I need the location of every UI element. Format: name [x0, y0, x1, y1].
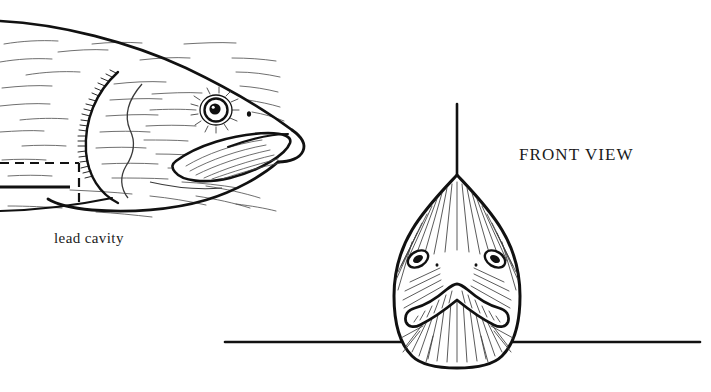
figure-root: lead cavity: [0, 0, 711, 392]
nostril: [247, 111, 251, 117]
front-view-left-nostril: [436, 263, 439, 267]
eye-pupil: [209, 103, 220, 114]
front-view-label: FRONT VIEW: [519, 145, 634, 164]
fish-head-pattern-figure: lead cavity: [0, 0, 711, 392]
lead-cavity-label: lead cavity: [54, 230, 124, 246]
eye-highlight: [212, 106, 215, 109]
front-view-right-nostril: [475, 263, 478, 267]
